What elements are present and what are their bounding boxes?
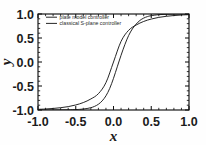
legend-label-0: plate model controller	[60, 14, 110, 20]
xtick-label-4: 1.0	[180, 115, 197, 129]
chart-canvas: -1.0 -0.5 0.0 0.5 1.0 1.0 0.5 0.0 -0.5 -…	[0, 0, 206, 145]
ytick-label-0: -1.0	[12, 104, 34, 118]
xtick-label-3: 0.5	[143, 115, 160, 129]
y-axis-title: y	[0, 58, 14, 67]
ytick-label-3: 0.5	[17, 32, 34, 46]
x-axis-title: x	[109, 128, 118, 144]
legend-label-1: classical S-plane controller	[60, 20, 122, 26]
ytick-label-4: 1.0	[17, 8, 34, 22]
xtick-label-2: 0.0	[105, 115, 122, 129]
figure-container: -1.0 -0.5 0.0 0.5 1.0 1.0 0.5 0.0 -0.5 -…	[0, 0, 206, 145]
xtick-label-1: -0.5	[65, 115, 87, 129]
ytick-label-2: 0.0	[17, 56, 34, 70]
ytick-label-1: -0.5	[12, 80, 34, 94]
